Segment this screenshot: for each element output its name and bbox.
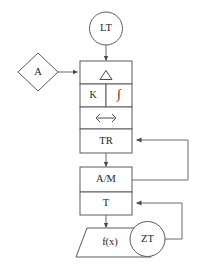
source-circle-label: LT xyxy=(100,22,112,33)
node-feedback-circle[interactable]: ZT xyxy=(130,222,165,257)
stack-row-tr[interactable]: TR xyxy=(80,129,132,153)
stack-row-bidirectional[interactable] xyxy=(80,107,132,129)
connector-am-feedback-to-tr xyxy=(132,140,188,180)
stack-row-2-left-label: K xyxy=(89,89,97,100)
feedback-circle-label: ZT xyxy=(141,233,154,244)
stack-row-summing[interactable] xyxy=(80,61,132,84)
diagram-svg: LT A K ∫ xyxy=(0,0,203,266)
node-mode-box[interactable]: A/M xyxy=(80,167,132,192)
stack-row-gain-integral: K ∫ xyxy=(80,84,132,107)
t-box-label: T xyxy=(103,197,110,208)
mode-box-label: A/M xyxy=(96,173,117,184)
node-input-diamond[interactable]: A xyxy=(18,53,58,91)
stack-row-4-label: TR xyxy=(99,135,112,146)
diagram-canvas: LT A K ∫ xyxy=(0,0,203,266)
function-trapezoid-label: f(x) xyxy=(102,236,118,248)
node-t-box[interactable]: T xyxy=(80,192,132,215)
node-controller-stack: K ∫ TR xyxy=(80,61,132,153)
node-source-circle[interactable]: LT xyxy=(90,12,123,45)
input-diamond-label: A xyxy=(34,66,42,77)
